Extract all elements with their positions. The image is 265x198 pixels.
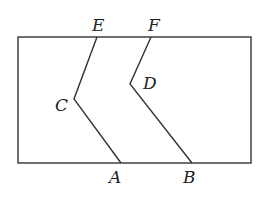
label-f: F <box>147 15 161 35</box>
polyline-e-c-a <box>74 37 121 163</box>
label-d: D <box>142 73 157 93</box>
polyline-f-d-b <box>130 37 192 163</box>
rectangle <box>18 37 251 163</box>
label-c: C <box>55 95 68 115</box>
geometry-diagram: E F C D A B <box>0 0 265 198</box>
label-e: E <box>91 15 105 35</box>
label-b: B <box>182 167 196 187</box>
label-a: A <box>107 167 121 187</box>
